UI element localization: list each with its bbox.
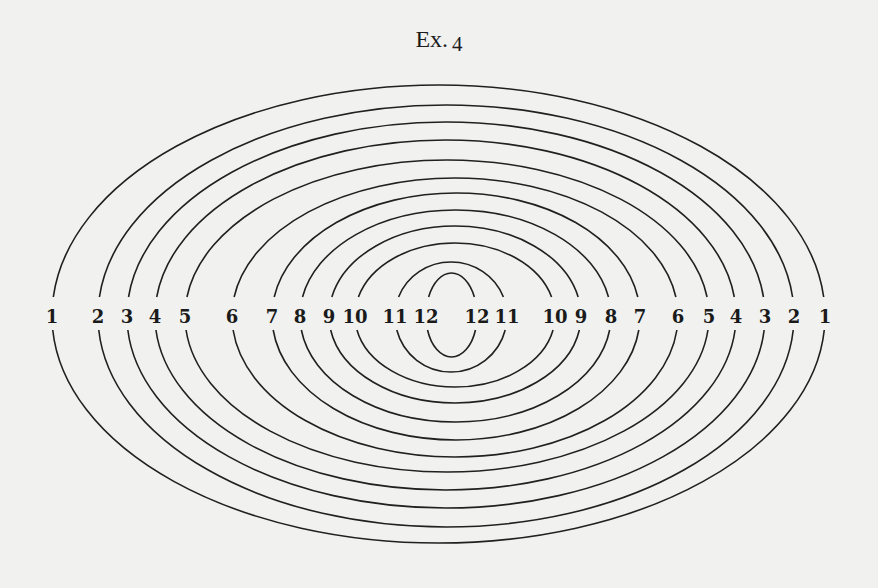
arc-label-left-6: 6 xyxy=(226,306,239,327)
arc-7-lower xyxy=(273,330,639,440)
arc-label-left-7: 7 xyxy=(266,306,279,327)
arc-10-upper xyxy=(358,243,551,297)
arc-label-left-11: 11 xyxy=(382,306,407,327)
arc-label-left-10: 10 xyxy=(342,306,367,327)
arc-label-left-5: 5 xyxy=(179,306,192,327)
arc-6-upper xyxy=(234,178,676,297)
arc-11-upper xyxy=(399,262,504,297)
book-page: Ex.4 123456789101112121110987654321 xyxy=(0,0,878,588)
arc-label-left-3: 3 xyxy=(121,306,134,327)
arc-9-lower xyxy=(331,330,580,403)
arc-label-right-10: 10 xyxy=(542,306,567,327)
arc-label-right-11: 11 xyxy=(494,306,519,327)
arc-label-left-4: 4 xyxy=(149,306,162,327)
nested-arcs-diagram xyxy=(0,0,878,588)
arc-label-right-1: 1 xyxy=(819,306,832,327)
arc-label-right-6: 6 xyxy=(672,306,685,327)
arc-4-lower xyxy=(156,330,735,490)
arc-label-left-9: 9 xyxy=(323,306,336,327)
arc-5-upper xyxy=(187,160,707,297)
arc-label-left-8: 8 xyxy=(294,306,307,327)
arc-11-lower xyxy=(397,330,505,372)
arc-7-upper xyxy=(274,193,638,297)
arc-12-upper xyxy=(429,273,475,297)
arc-12-lower xyxy=(428,330,476,357)
arc-1-upper xyxy=(53,85,823,297)
arc-label-right-9: 9 xyxy=(575,306,588,327)
arc-1-lower xyxy=(53,330,825,543)
arc-label-right-12: 12 xyxy=(464,306,489,327)
arc-8-lower xyxy=(301,330,609,422)
arc-label-right-5: 5 xyxy=(703,306,716,327)
arc-label-right-3: 3 xyxy=(759,306,772,327)
arc-label-right-2: 2 xyxy=(788,306,801,327)
arc-8-upper xyxy=(303,210,609,297)
arc-label-right-7: 7 xyxy=(634,306,647,327)
arc-2-upper xyxy=(99,105,792,297)
arc-10-lower xyxy=(357,330,553,387)
arc-2-lower xyxy=(99,330,793,527)
arc-label-left-12: 12 xyxy=(413,306,438,327)
arc-label-right-4: 4 xyxy=(730,306,743,327)
arc-label-left-1: 1 xyxy=(46,306,59,327)
arc-label-right-8: 8 xyxy=(605,306,618,327)
arc-label-left-2: 2 xyxy=(92,306,105,327)
